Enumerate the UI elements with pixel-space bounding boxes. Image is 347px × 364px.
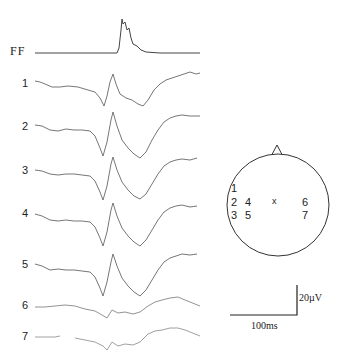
trace-ff [35,19,200,53]
trace-3 [35,157,197,200]
trace-5 [35,254,197,296]
trace-label-ff: FF [10,44,25,59]
electrode-x: x [272,196,277,206]
trace-2 [35,112,200,158]
time-scale-label: 100ms [251,320,278,331]
trace-label-4: 4 [22,207,28,219]
voltage-scale-label: 20µV [299,292,322,303]
trace-label-2: 2 [22,120,28,132]
electrode-3: 3 [231,209,237,221]
scale-bar [230,285,297,315]
trace-1 [35,72,200,106]
electrode-7: 7 [302,209,308,221]
trace-label-3: 3 [22,164,28,176]
electrode-5: 5 [245,209,251,221]
head-outline [227,154,329,256]
waveform-plot [0,0,347,364]
nose-icon [272,145,282,155]
trace-label-6: 6 [22,299,28,311]
trace-label-1: 1 [22,77,28,89]
electrode-6: 6 [302,196,308,208]
electrode-2: 2 [231,196,237,208]
trace-7 [35,328,200,350]
electrode-4: 4 [245,196,251,208]
trace-label-5: 5 [22,258,28,270]
trace-6 [35,297,200,318]
trace-4 [35,203,197,246]
trace-label-7: 7 [22,330,28,342]
electrode-1: 1 [231,182,237,194]
